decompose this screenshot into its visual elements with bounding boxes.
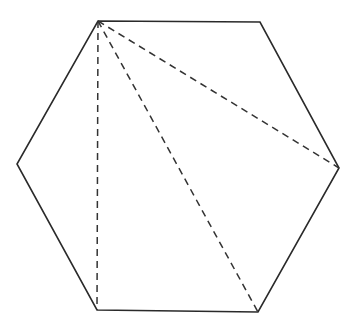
- hexagon-diagram: [0, 0, 354, 330]
- diagonal-top-left-to-bottom-left: [97, 21, 98, 310]
- hexagon-outline: [17, 21, 339, 312]
- diagonal-top-left-to-bottom-right: [98, 21, 258, 312]
- diagonal-top-left-to-right: [98, 21, 339, 168]
- dashed-diagonals: [97, 21, 339, 312]
